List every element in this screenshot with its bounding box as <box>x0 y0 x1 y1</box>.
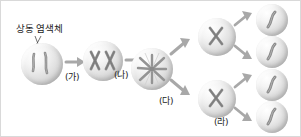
cell-3-chromosomes <box>131 48 173 90</box>
arrow-da-lower <box>169 77 195 99</box>
stage-label-ra: (라) <box>214 115 228 128</box>
cell-initial <box>21 43 63 85</box>
cell-7-chromosomes <box>256 36 288 68</box>
meiosis-diagram: 상동 염색체 (가) <box>0 0 301 137</box>
cell-4-chromosomes <box>198 18 236 56</box>
cell-9-chromosomes <box>256 101 288 133</box>
cell-gamete-3 <box>256 69 288 101</box>
cell-gamete-2 <box>256 36 288 68</box>
cell-5-chromosomes <box>198 80 236 118</box>
cell-metaphase <box>131 48 173 90</box>
stage-label-ga: (가) <box>65 70 79 83</box>
arrow-da-upper <box>169 37 195 57</box>
cell-daughter-upper <box>198 18 236 56</box>
cell-8-chromosomes <box>256 69 288 101</box>
arrow-ra-2 <box>233 43 257 61</box>
stage-label-na: (나) <box>114 68 128 81</box>
arrow-ra-4 <box>233 105 257 123</box>
cell-6-chromosomes <box>256 4 288 36</box>
arrow-ra-1 <box>233 11 257 29</box>
cell-daughter-lower <box>198 80 236 118</box>
cell-gamete-1 <box>256 4 288 36</box>
cell-1-chromosomes <box>21 43 63 85</box>
arrow-ra-3 <box>233 73 257 91</box>
cell-gamete-4 <box>256 101 288 133</box>
